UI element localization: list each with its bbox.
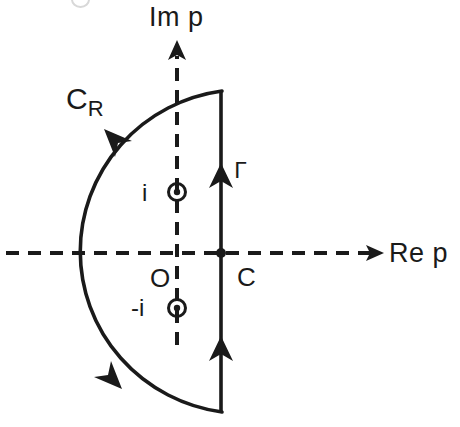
abscissa-point-label: C: [237, 264, 256, 290]
contour-arc-arrowhead-lower: [94, 361, 122, 389]
contour-arc-label: CR: [66, 84, 104, 114]
pole-lower-dot: [174, 305, 180, 311]
contour-arc-label-subscript: R: [88, 96, 104, 121]
imaginary-axis-label: Im p: [149, 4, 204, 31]
pole-upper-dot: [174, 189, 180, 195]
pole-lower-label: -i: [131, 296, 144, 320]
real-axis-label: Re p: [389, 240, 448, 267]
contour-arc-arrowhead-upper: [104, 129, 132, 157]
contour-plot-canvas: [0, 0, 460, 427]
gamma-line-label: Γ: [234, 160, 246, 182]
real-axis: [6, 245, 384, 261]
contour-arc-label-main: C: [66, 82, 88, 115]
abscissa-point-marker: [216, 248, 226, 258]
contour-diagram-figure: Im p Re p CR Γ i -i O C: [0, 0, 460, 427]
origin-label: O: [150, 265, 170, 291]
pole-upper-label: i: [142, 181, 147, 205]
